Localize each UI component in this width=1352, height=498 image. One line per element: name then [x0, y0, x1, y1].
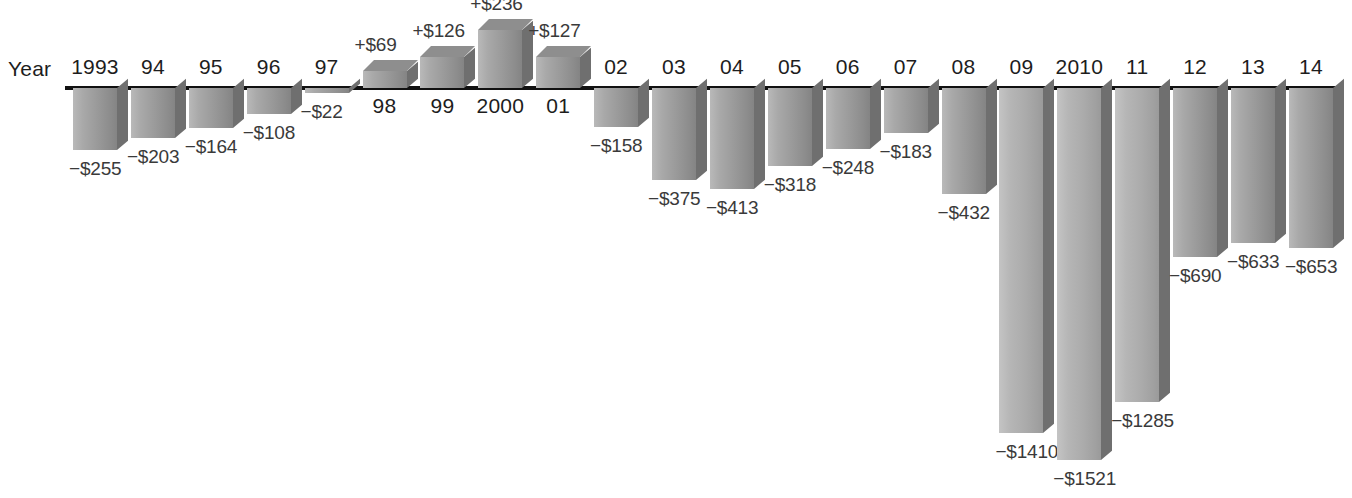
bar-value-03: −$375 [648, 188, 700, 210]
bar-06 [826, 88, 870, 149]
bar-side-05 [812, 79, 823, 166]
bar-08 [942, 88, 986, 194]
bar-side-12 [1217, 79, 1228, 257]
bar-value-11: −$1285 [1111, 410, 1174, 432]
bar-1993 [73, 88, 117, 150]
bar-value-08: −$432 [938, 202, 990, 224]
bar-96 [247, 88, 291, 114]
bar-side-02 [638, 79, 649, 127]
bar-side-04 [754, 79, 765, 189]
bar-99 [420, 57, 464, 88]
bar-value-04: −$413 [706, 197, 758, 219]
bar-14 [1289, 88, 1333, 248]
bar-value-2010: −$1521 [1053, 468, 1116, 490]
bar-value-98: +$69 [355, 34, 397, 56]
bar-2000 [478, 30, 522, 88]
bar-value-06: −$248 [822, 157, 874, 179]
deficit-bar-chart: Year 1993−$25594−$20395−$16496−$10897−$2… [0, 0, 1352, 498]
bar-04 [710, 88, 754, 189]
bar-side-94 [175, 79, 186, 138]
bar-value-02: −$158 [590, 135, 642, 157]
bar-value-09: −$1410 [995, 441, 1058, 463]
bar-value-2000: +$236 [470, 0, 522, 15]
plot-area: 1993−$25594−$20395−$16496−$10897−$2298+$… [0, 0, 1352, 498]
bar-12 [1173, 88, 1217, 257]
bar-side-14 [1333, 79, 1344, 248]
bar-value-12: −$690 [1169, 265, 1221, 287]
bar-side-13 [1275, 79, 1286, 243]
bar-value-01: +$127 [528, 20, 580, 42]
bar-02 [594, 88, 638, 127]
bar-07 [884, 88, 928, 133]
bar-01 [536, 57, 580, 88]
bar-03 [652, 88, 696, 180]
bar-value-1993: −$255 [69, 158, 121, 180]
year-tick-14: 14 [1275, 55, 1347, 79]
bar-side-2010 [1101, 79, 1112, 460]
bar-value-94: −$203 [127, 146, 179, 168]
bar-2010 [1057, 88, 1101, 460]
bar-11 [1115, 88, 1159, 402]
bar-05 [768, 88, 812, 166]
bar-side-08 [986, 79, 997, 194]
year-tick-01: 01 [522, 94, 594, 118]
bar-97 [305, 88, 349, 93]
bar-side-97 [349, 79, 360, 94]
bar-side-06 [870, 79, 881, 149]
bar-side-09 [1043, 79, 1054, 433]
bar-98 [363, 71, 407, 88]
bar-13 [1231, 88, 1275, 243]
bar-side-03 [696, 79, 707, 180]
bar-94 [131, 88, 175, 138]
bar-side-11 [1159, 79, 1170, 402]
bar-value-99: +$126 [412, 20, 464, 42]
year-tick-97: 97 [291, 55, 363, 79]
bar-value-97: −$22 [301, 101, 343, 123]
bar-value-07: −$183 [880, 141, 932, 163]
bar-side-1993 [117, 79, 128, 151]
bar-95 [189, 88, 233, 128]
bar-side-95 [233, 79, 244, 128]
bar-value-96: −$108 [243, 122, 295, 144]
bar-value-05: −$318 [764, 174, 816, 196]
bar-09 [999, 88, 1043, 433]
bar-value-14: −$653 [1285, 256, 1337, 278]
bar-value-95: −$164 [185, 136, 237, 158]
bar-value-13: −$633 [1227, 251, 1279, 273]
bar-side-07 [928, 79, 939, 133]
